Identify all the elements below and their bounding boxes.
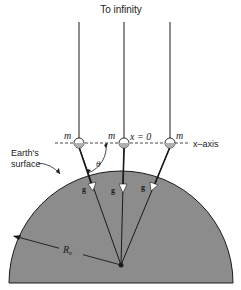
g-center-label: g (111, 186, 115, 195)
theta-label: θ (96, 159, 101, 169)
earth-gravity-diagram: To infinity m m x = 0 m x–axis Earth's s… (0, 0, 241, 290)
mass-left-label: m (64, 130, 71, 141)
surface-pointer-arrow-icon (56, 168, 60, 174)
earth-center-dot (119, 263, 124, 268)
mass-center (119, 138, 129, 148)
mass-center-label: m (108, 130, 115, 141)
mass-left (74, 138, 84, 148)
g-left-label: g (82, 185, 86, 194)
surface-label-line2: surface (11, 159, 41, 169)
mass-right (165, 138, 175, 148)
title-label: To infinity (100, 4, 142, 15)
gravity-vector-center (123, 147, 124, 186)
origin-label: x = 0 (129, 131, 151, 142)
surface-pointer (38, 163, 60, 174)
mass-right-label: m (176, 130, 183, 141)
g-right-label: g (141, 183, 145, 192)
x-axis-label: x–axis (193, 139, 219, 149)
surface-label-line1: Earth's (11, 148, 39, 158)
